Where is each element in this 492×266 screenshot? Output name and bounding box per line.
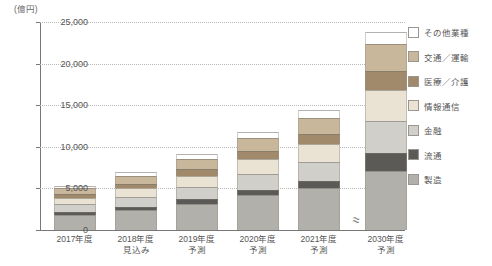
legend-label: 医療／介護 xyxy=(424,75,469,87)
y-axis-tick-label: 15,000 xyxy=(60,100,88,110)
legend-swatch-icon xyxy=(408,100,419,111)
x-axis-label-1: 2018年度 見込み xyxy=(101,234,171,256)
y-axis-tick xyxy=(36,147,40,148)
y-axis-tick xyxy=(36,230,40,231)
bar-segment[interactable] xyxy=(115,210,157,230)
bar-segment[interactable] xyxy=(298,162,340,181)
x-axis-label-4: 2021年度 予測 xyxy=(284,234,354,256)
bar-segment[interactable] xyxy=(365,44,407,71)
bar-segment[interactable] xyxy=(54,198,96,205)
bar-segment[interactable] xyxy=(298,110,340,117)
legend-swatch-icon xyxy=(408,27,419,38)
gridline xyxy=(40,147,405,148)
legend-item[interactable]: 製造 xyxy=(408,173,469,185)
bar-segment[interactable] xyxy=(176,176,218,187)
bar-segment[interactable] xyxy=(298,144,340,162)
legend-swatch-icon xyxy=(408,174,419,185)
legend-label: 交通／運輸 xyxy=(424,51,469,63)
legend-item[interactable]: 流通 xyxy=(408,149,469,161)
bar-segment[interactable] xyxy=(115,176,157,183)
gridline xyxy=(40,22,405,23)
bar-segment[interactable] xyxy=(54,215,96,230)
bar-segment[interactable] xyxy=(176,187,218,199)
bar-segment[interactable] xyxy=(176,159,218,169)
bar-segment[interactable] xyxy=(237,195,279,230)
bar-segment[interactable] xyxy=(298,188,340,230)
legend-item[interactable]: 情報通信 xyxy=(408,100,469,112)
legend-label: その他業種 xyxy=(424,26,469,38)
bar-segment[interactable] xyxy=(176,204,218,230)
x-axis-label-5: 2030年度 予測 xyxy=(351,234,421,256)
bar-segment[interactable] xyxy=(237,174,279,190)
y-axis-tick xyxy=(36,64,40,65)
y-axis-line xyxy=(40,22,41,230)
legend-swatch-icon xyxy=(408,51,419,62)
bar-segment[interactable] xyxy=(298,134,340,144)
bar-segment[interactable] xyxy=(237,138,279,151)
legend-swatch-icon xyxy=(408,76,419,87)
bar-segment[interactable] xyxy=(115,188,157,197)
gridline xyxy=(40,64,405,65)
x-axis-line xyxy=(40,230,405,231)
bar-2[interactable] xyxy=(176,154,218,230)
y-axis-unit-label: (億円) xyxy=(14,2,38,14)
legend-label: 流通 xyxy=(424,149,442,161)
bar-segment[interactable] xyxy=(298,181,340,188)
bar-4[interactable] xyxy=(298,110,340,230)
legend-item[interactable]: その他業種 xyxy=(408,26,469,38)
bar-3[interactable] xyxy=(237,132,279,230)
bar-segment[interactable] xyxy=(365,32,407,44)
bar-segment[interactable] xyxy=(365,153,407,170)
x-axis-label-3: 2020年度 予測 xyxy=(223,234,293,256)
bar-segment[interactable] xyxy=(237,151,279,159)
plot-area xyxy=(40,22,405,230)
bar-segment[interactable] xyxy=(298,118,340,134)
y-axis-tick xyxy=(36,105,40,106)
y-axis-tick-label: 10,000 xyxy=(60,142,88,152)
y-axis-tick xyxy=(36,22,40,23)
legend-item[interactable]: 金融 xyxy=(408,124,469,136)
bar-segment[interactable] xyxy=(365,121,407,153)
legend: その他業種交通／運輸医療／介護情報通信金融流通製造 xyxy=(408,26,469,185)
y-axis-tick-label: 20,000 xyxy=(60,59,88,69)
legend-label: 情報通信 xyxy=(424,100,460,112)
x-axis-label-0: 2017年度 xyxy=(40,234,110,245)
bar-1[interactable] xyxy=(115,172,157,230)
bar-segment[interactable] xyxy=(115,197,157,207)
legend-label: 金融 xyxy=(424,124,442,136)
y-axis-tick xyxy=(36,188,40,189)
bar-segment[interactable] xyxy=(237,159,279,174)
bar-segment[interactable] xyxy=(365,171,407,230)
legend-item[interactable]: 交通／運輸 xyxy=(408,51,469,63)
gridline xyxy=(40,105,405,106)
legend-label: 製造 xyxy=(424,173,442,185)
bar-segment[interactable] xyxy=(365,90,407,121)
legend-swatch-icon xyxy=(408,125,419,136)
legend-item[interactable]: 医療／介護 xyxy=(408,75,469,87)
y-axis-tick-label: 5,000 xyxy=(65,183,88,193)
bar-segment[interactable] xyxy=(365,71,407,90)
chart-root: (億円) 05,00010,00015,00020,00025,000 2017… xyxy=(0,0,492,266)
bar-segment[interactable] xyxy=(54,204,96,211)
x-axis-label-2: 2019年度 予測 xyxy=(162,234,232,256)
legend-swatch-icon xyxy=(408,149,419,160)
bar-5[interactable] xyxy=(365,32,407,230)
y-axis-tick-label: 25,000 xyxy=(60,17,88,27)
